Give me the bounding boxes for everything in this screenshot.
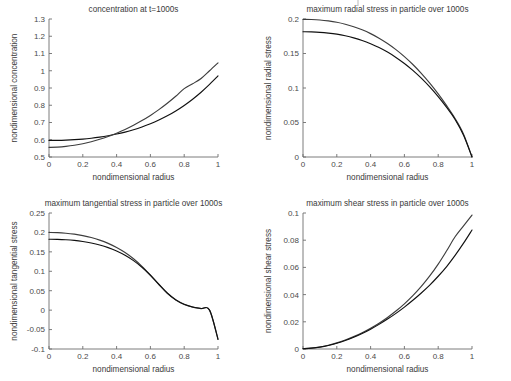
x-axis-label: nondimensional radius [347,365,429,374]
plot-concentration: concentration at t=1000s00.20.40.60.810.… [0,0,255,190]
x-tick-label: 0 [47,352,52,361]
y-tick-label: 1.1 [34,49,46,58]
y-tick-label: -0.05 [27,325,46,334]
y-tick-label: 0.9 [34,84,46,93]
x-tick-label: 0.2 [77,352,89,361]
y-tick-label: 0.25 [29,209,45,218]
y-tick-label: 1.3 [34,15,46,24]
x-tick-label: 1 [470,352,475,361]
y-tick-label: 0.1 [34,267,46,276]
plot-radial-stress: maximum radial stress in particle over 1… [256,0,511,190]
x-axis-label: nondimensional radius [93,173,175,182]
x-tick-label: 1 [470,160,475,169]
x-tick-label: 0.4 [111,352,123,361]
x-tick-label: 0 [301,160,306,169]
figure-canvas: concentration at t=1000s00.20.40.60.810.… [0,0,511,381]
y-tick-label: 0.15 [29,248,45,257]
x-tick-label: 0.2 [331,352,343,361]
y-tick-label: -0.1 [31,345,45,354]
subplot-concentration: concentration at t=1000s00.20.40.60.810.… [0,0,255,190]
y-tick-label: 0.8 [34,101,46,110]
x-axis-label: nondimensional radius [347,173,429,182]
x-tick-label: 1 [216,352,221,361]
x-tick-label: 0.8 [433,160,445,169]
y-tick-label: 1 [41,67,46,76]
plot-tangential-stress: maximum tangential stress in particle ov… [0,191,255,381]
series-line-model-a [49,76,218,141]
series-line-model-a [303,215,472,349]
y-axis-label: nondimensional tangential stress [10,221,19,340]
x-tick-label: 0.6 [399,160,411,169]
y-tick-label: 0.2 [288,15,300,24]
series-line-model-b [303,32,472,157]
x-tick-label: 0.8 [179,160,191,169]
y-tick-label: 0.08 [283,236,299,245]
x-tick-label: 0.8 [179,352,191,361]
y-tick-label: 0.04 [283,291,299,300]
y-tick-label: 0.6 [34,136,46,145]
series-line-model-b [49,63,218,148]
y-tick-label: 0 [295,153,300,162]
y-tick-label: 0.06 [283,263,299,272]
series-line-model-b [49,239,218,339]
y-tick-label: 0.2 [34,228,46,237]
y-tick-label: 1.2 [34,32,46,41]
x-tick-label: 0.2 [331,160,343,169]
plot-title: concentration at t=1000s [89,5,179,14]
plot-title: maximum radial stress in particle over 1… [307,5,469,14]
x-tick-label: 0.6 [145,160,157,169]
x-tick-label: 0.6 [145,352,157,361]
y-tick-label: 0.05 [283,118,299,127]
y-tick-label: 0.1 [288,209,300,218]
y-tick-label: 0.02 [283,318,299,327]
x-tick-label: 0.6 [399,352,411,361]
series-line-model-b [303,230,472,349]
x-tick-label: 0 [301,352,306,361]
y-tick-label: 0.15 [283,49,299,58]
series-line-model-a [49,232,218,339]
axis-spines [49,213,218,349]
x-tick-label: 0.4 [365,160,377,169]
subplot-tangential-stress: maximum tangential stress in particle ov… [0,191,255,381]
plot-shear-stress: maximum shear stress in particle over 10… [256,191,511,381]
plot-title: maximum tangential stress in particle ov… [45,199,222,208]
x-tick-label: 1 [216,160,221,169]
x-tick-label: 0.2 [77,160,89,169]
subplot-shear-stress: maximum shear stress in particle over 10… [256,191,511,381]
y-tick-label: 0.5 [34,153,46,162]
x-tick-label: 0.4 [365,352,377,361]
y-axis-label: nondimensional shear stress [264,229,273,333]
x-axis-label: nondimensional radius [93,365,175,374]
subplot-radial-stress: maximum radial stress in particle over 1… [256,0,511,190]
y-axis-label: nondimensional radial stress [264,36,273,140]
y-tick-label: 0 [41,306,46,315]
y-tick-label: 0.1 [288,84,300,93]
y-axis-label: nondimensional concentration [10,33,19,142]
axis-spines [49,19,218,157]
x-tick-label: 0.8 [433,352,445,361]
y-tick-label: 0.05 [29,287,45,296]
axis-spines [303,19,472,157]
x-tick-label: 0.4 [111,160,123,169]
series-line-model-a [303,19,472,157]
y-tick-label: 0.7 [34,118,46,127]
y-tick-label: 0 [295,345,300,354]
plot-title: maximum shear stress in particle over 10… [306,199,468,208]
x-tick-label: 0 [47,160,52,169]
axis-spines [303,213,472,349]
